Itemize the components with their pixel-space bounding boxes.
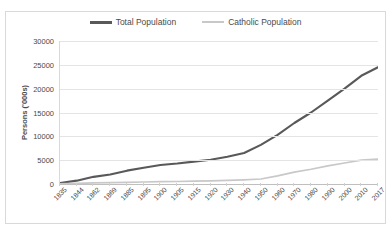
y-axis-tick-label: 25000 (14, 60, 54, 69)
x-axis-tick-label: 1940 (236, 186, 252, 202)
gridline (60, 136, 378, 137)
x-axis-tick-mark (210, 183, 211, 186)
x-axis-tick-mark (310, 183, 311, 186)
gridline (60, 160, 378, 161)
x-axis-tick-label: 1990 (320, 186, 336, 202)
x-axis-tick-mark (92, 183, 93, 186)
x-axis-tick-labels: 1835184418621869188518951900190519151920… (59, 186, 377, 220)
x-axis-tick-mark (193, 183, 194, 186)
x-axis-tick-label: 1844 (69, 186, 85, 202)
y-axis-tick-label: 0 (14, 180, 54, 189)
x-axis-tick-label: 2000 (337, 186, 353, 202)
legend-label-total-population: Total Population (116, 18, 177, 27)
x-axis-tick-mark (59, 183, 60, 186)
gridline (60, 113, 378, 114)
x-axis-tick-label: 1862 (86, 186, 102, 202)
x-axis-tick-label: 2017 (370, 186, 386, 202)
x-axis-tick-mark (293, 183, 294, 186)
x-axis-tick-mark (360, 183, 361, 186)
x-axis-tick-label: 1915 (186, 186, 202, 202)
legend-line-swatch-icon (90, 21, 112, 24)
x-axis-tick-label: 1960 (270, 186, 286, 202)
plot-area (59, 41, 378, 185)
x-axis-tick-mark (327, 183, 328, 186)
legend-entry-catholic-population: Catholic Population (202, 18, 301, 27)
x-axis-tick-label: 1900 (153, 186, 169, 202)
x-axis-tick-mark (243, 183, 244, 186)
x-axis-tick-label: 1895 (136, 186, 152, 202)
x-axis-tick-label: 1885 (119, 186, 135, 202)
x-axis-tick-mark (143, 183, 144, 186)
x-axis-tick-label: 1980 (303, 186, 319, 202)
x-axis-tick-label: 2010 (354, 186, 370, 202)
x-axis-tick-label: 1869 (102, 186, 118, 202)
x-axis-tick-label: 1905 (169, 186, 185, 202)
line-catholic-population (60, 159, 378, 184)
legend-entry-total-population: Total Population (90, 18, 177, 27)
chart-legend: Total Population Catholic Population (6, 18, 385, 27)
x-axis-tick-mark (176, 183, 177, 186)
x-axis-tick-label: 1970 (287, 186, 303, 202)
gridline (60, 41, 378, 42)
x-axis-tick-mark (126, 183, 127, 186)
chart-container: Total Population Catholic Population Per… (5, 11, 386, 224)
x-axis-tick-label: 1920 (203, 186, 219, 202)
x-axis-tick-mark (344, 183, 345, 186)
y-axis-tick-labels: 300002500020000150001000050000 (14, 41, 54, 184)
gridline (60, 89, 378, 90)
x-axis-tick-label: 1950 (253, 186, 269, 202)
y-axis-tick-label: 20000 (14, 84, 54, 93)
x-axis-tick-mark (226, 183, 227, 186)
x-axis-tick-mark (159, 183, 160, 186)
x-axis-tick-mark (277, 183, 278, 186)
x-axis-tick-mark (377, 183, 378, 186)
x-axis-tick-mark (109, 183, 110, 186)
gridline (60, 65, 378, 66)
x-axis-tick-label: 1835 (52, 186, 68, 202)
legend-label-catholic-population: Catholic Population (228, 18, 301, 27)
x-axis-tick-label: 1930 (220, 186, 236, 202)
y-axis-tick-label: 15000 (14, 108, 54, 117)
x-axis-tick-mark (76, 183, 77, 186)
x-axis-tick-mark (260, 183, 261, 186)
legend-line-swatch-icon (202, 21, 224, 23)
y-axis-tick-label: 5000 (14, 156, 54, 165)
y-axis-tick-label: 10000 (14, 132, 54, 141)
y-axis-tick-label: 30000 (14, 37, 54, 46)
